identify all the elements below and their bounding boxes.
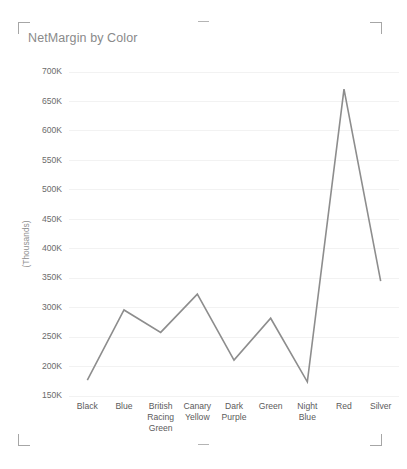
y-axis-tick-label: 450K bbox=[42, 214, 62, 224]
x-axis-tick-label[interactable]: Blue bbox=[115, 401, 132, 411]
chart-series-group[interactable] bbox=[87, 89, 380, 382]
x-axis-tick-label[interactable]: BritishRacingGreen bbox=[147, 401, 174, 433]
x-axis-tick-label[interactable]: Green bbox=[259, 401, 283, 411]
y-axis-tick-label: 250K bbox=[42, 331, 62, 341]
line-chart-visual[interactable]: NetMargin by Color 150K200K250K300K350K4… bbox=[0, 0, 407, 469]
y-axis-tick-label: 300K bbox=[42, 302, 62, 312]
y-axis-tick-label: 200K bbox=[42, 361, 62, 371]
x-axis-tick-label[interactable]: DarkPurple bbox=[222, 401, 247, 422]
y-axis-tick-label: 600K bbox=[42, 125, 62, 135]
x-axis-tick-label[interactable]: Silver bbox=[370, 401, 392, 411]
series-line-netmargin[interactable] bbox=[87, 89, 380, 382]
y-axis-tick-labels: 150K200K250K300K350K400K450K500K550K600K… bbox=[42, 66, 62, 400]
y-axis-tick-label: 400K bbox=[42, 243, 62, 253]
y-axis-tick-label: 350K bbox=[42, 272, 62, 282]
y-axis-title: (Thousands) bbox=[21, 220, 31, 267]
y-axis-tick-label: 550K bbox=[42, 155, 62, 165]
y-axis-tick-label: 700K bbox=[42, 66, 62, 76]
x-axis-tick-label[interactable]: CanaryYellow bbox=[183, 401, 211, 422]
x-axis-tick-label[interactable]: Black bbox=[77, 401, 99, 411]
y-axis-tick-label: 500K bbox=[42, 184, 62, 194]
y-axis-tick-label: 650K bbox=[42, 96, 62, 106]
y-axis-tick-label: 150K bbox=[42, 390, 62, 400]
x-axis-tick-label[interactable]: Red bbox=[336, 401, 352, 411]
x-axis-tick-label[interactable]: NightBlue bbox=[297, 401, 318, 422]
x-axis-tick-labels: BlackBlueBritishRacingGreenCanaryYellowD… bbox=[77, 401, 392, 433]
chart-plot-area[interactable]: 150K200K250K300K350K400K450K500K550K600K… bbox=[0, 0, 407, 469]
